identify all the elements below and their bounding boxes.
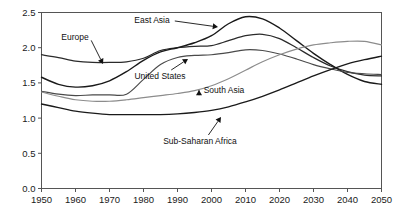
x-tick-label: 2000 bbox=[201, 194, 222, 205]
y-tick-label: 0.0 bbox=[22, 183, 35, 194]
x-tick-label: 2010 bbox=[235, 194, 256, 205]
annotation-leader-east-asia bbox=[175, 21, 213, 26]
x-tick-label: 2030 bbox=[303, 194, 324, 205]
annotation-arrowhead-east-asia bbox=[212, 23, 218, 29]
x-tick-label: 2050 bbox=[371, 194, 392, 205]
x-tick-label: 1980 bbox=[133, 194, 154, 205]
annotation-label-south-asia: South Asia bbox=[204, 85, 245, 95]
x-axis-ticks bbox=[42, 189, 382, 193]
x-tick-label: 1950 bbox=[31, 194, 52, 205]
x-axis-tick-labels: 1950196019701980199020002010202020302040… bbox=[31, 194, 392, 205]
data-series-group bbox=[42, 16, 382, 114]
x-tick-label: 2020 bbox=[269, 194, 290, 205]
y-tick-label: 0.5 bbox=[22, 148, 35, 159]
plot-area bbox=[42, 13, 382, 189]
x-tick-label: 1990 bbox=[167, 194, 188, 205]
series-annotations-group: EuropeEast AsiaUnited StatesSouth AsiaSu… bbox=[61, 15, 244, 146]
line-chart: 0.00.51.01.52.02.5 195019601970198019902… bbox=[0, 0, 399, 219]
annotation-east-asia: East Asia bbox=[134, 15, 218, 29]
x-tick-label: 2040 bbox=[337, 194, 358, 205]
series-line-east-asia bbox=[42, 16, 382, 87]
annotation-leader-europe bbox=[91, 40, 100, 59]
annotation-label-united-states: United States bbox=[134, 71, 185, 81]
chart-container: 0.00.51.01.52.02.5 195019601970198019902… bbox=[0, 0, 399, 219]
y-tick-label: 1.0 bbox=[22, 113, 35, 124]
plot-frame bbox=[42, 13, 382, 189]
annotation-leader-sub-saharan-africa bbox=[208, 121, 218, 135]
annotation-arrowhead-sub-saharan-africa bbox=[216, 117, 221, 123]
annotation-sub-saharan-africa: Sub-Saharan Africa bbox=[163, 117, 237, 146]
x-tick-label: 1960 bbox=[65, 194, 86, 205]
x-tick-label: 1970 bbox=[99, 194, 120, 205]
annotation-arrowhead-south-asia bbox=[196, 90, 202, 95]
annotation-south-asia: South Asia bbox=[196, 85, 245, 95]
annotation-label-europe: Europe bbox=[61, 32, 89, 42]
annotation-arrowhead-united-states bbox=[182, 59, 188, 64]
y-axis-ticks bbox=[38, 13, 42, 189]
annotation-label-east-asia: East Asia bbox=[134, 15, 170, 25]
y-tick-label: 2.5 bbox=[22, 7, 35, 18]
y-tick-label: 1.5 bbox=[22, 77, 35, 88]
y-axis-tick-labels: 0.00.51.01.52.02.5 bbox=[22, 7, 35, 194]
y-tick-label: 2.0 bbox=[22, 42, 35, 53]
annotation-united-states: United States bbox=[134, 59, 188, 81]
annotation-label-sub-saharan-africa: Sub-Saharan Africa bbox=[163, 136, 237, 146]
annotation-leader-united-states bbox=[171, 62, 183, 70]
